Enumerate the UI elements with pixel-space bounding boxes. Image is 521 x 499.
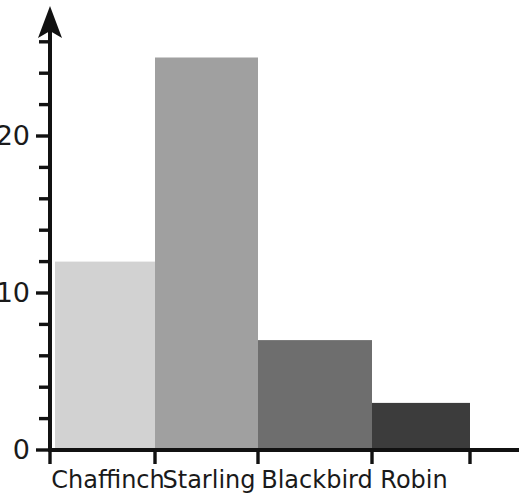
bar-chart: 0 10 20 Chaffinch Starling Blackbird Rob…: [0, 0, 521, 499]
bar-robin: [372, 403, 470, 450]
x-axis-ticks: [50, 450, 470, 464]
y-axis-label-20: 20: [0, 120, 30, 151]
x-axis-label-blackbird: Blackbird: [261, 466, 373, 494]
x-axis-label-chaffinch: Chaffinch: [51, 466, 165, 494]
bar-blackbird: [258, 340, 372, 450]
bar-starling: [155, 58, 258, 451]
y-axis-label-0: 0: [13, 434, 30, 465]
x-axis-label-robin: Robin: [380, 466, 447, 494]
y-axis-label-10: 10: [0, 277, 30, 308]
y-axis-ticks: [36, 42, 50, 450]
x-axis-labels: Chaffinch Starling Blackbird Robin: [51, 466, 447, 494]
x-axis-label-starling: Starling: [163, 466, 256, 494]
bars-group: [55, 58, 470, 451]
bar-chaffinch: [55, 262, 155, 450]
chart-canvas: 0 10 20 Chaffinch Starling Blackbird Rob…: [0, 0, 521, 499]
y-axis-labels: 0 10 20: [0, 120, 30, 465]
